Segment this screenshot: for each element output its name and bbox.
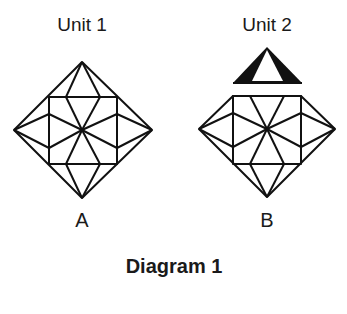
shape-a (14, 62, 152, 198)
shape-b (199, 96, 335, 197)
diagram-caption: Diagram 1 (126, 255, 223, 278)
label-a: A (75, 209, 88, 232)
label-b: B (260, 209, 273, 232)
removed-cap-triangle (233, 47, 302, 83)
